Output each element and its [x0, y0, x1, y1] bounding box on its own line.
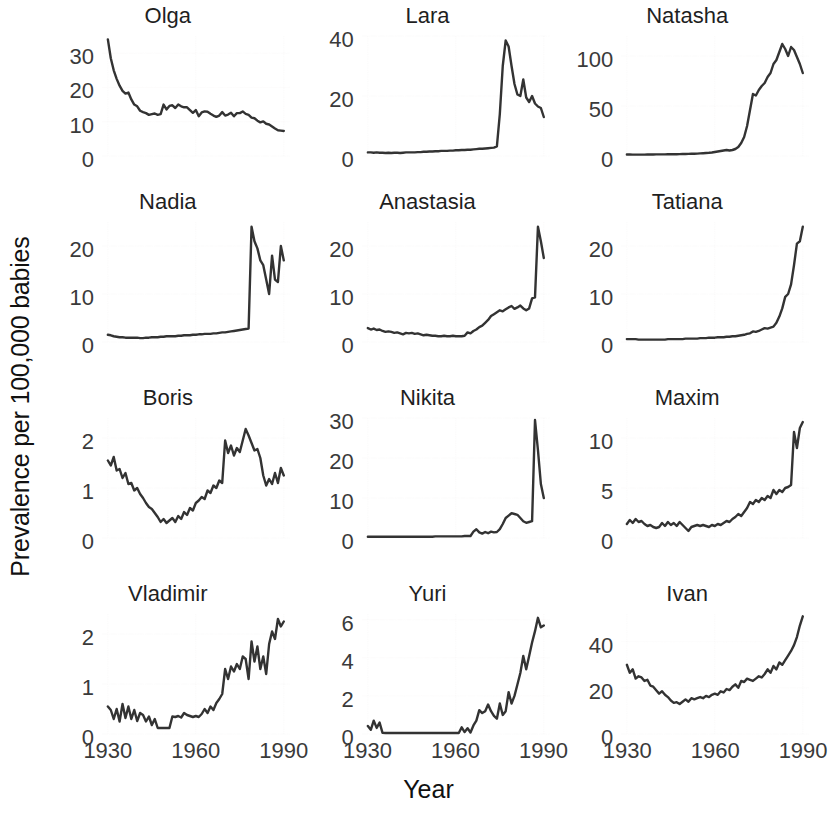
panel-nikita: Nikita0102030 [298, 382, 558, 578]
y-tick-label: 1 [82, 677, 94, 699]
y-axis-ticks-maxim: 0510 [557, 418, 617, 538]
gridlines-nadia [102, 222, 290, 342]
plot-area-nikita: 0102030 [298, 414, 558, 578]
y-tick-label: 10 [329, 491, 353, 513]
x-axis-ticks-ivan: 193019601990 [621, 738, 809, 768]
x-tick-label: 1930 [343, 740, 392, 762]
series-line-lara [368, 41, 544, 154]
panel-grid: Olga0102030Lara02040Natasha050100Nadia01… [38, 0, 817, 772]
plot-area-tatiana: 01020 [557, 218, 817, 382]
y-tick-label: 10 [70, 115, 94, 137]
gridlines-anastasia [362, 222, 550, 342]
panel-title-anastasia: Anastasia [298, 188, 558, 218]
panel-anastasia: Anastasia01020 [298, 186, 558, 382]
plot-area-ivan: 02040193019601990 [557, 610, 817, 772]
series-canvas-natasha [621, 36, 809, 156]
y-tick-label: 30 [70, 46, 94, 68]
panel-maxim: Maxim0510 [557, 382, 817, 578]
panel-title-yuri: Yuri [298, 580, 558, 610]
panel-title-olga: Olga [38, 2, 298, 32]
y-tick-label: 20 [70, 80, 94, 102]
y-axis-ticks-yuri: 0246 [298, 614, 358, 734]
y-tick-label: 10 [589, 431, 613, 453]
series-canvas-nadia [102, 222, 290, 342]
y-axis-ticks-nadia: 01020 [38, 222, 98, 342]
x-tick-label: 1930 [603, 740, 652, 762]
y-tick-label: 2 [82, 627, 94, 649]
y-axis-ticks-natasha: 050100 [557, 36, 617, 156]
y-tick-label: 4 [341, 651, 353, 673]
panel-title-maxim: Maxim [557, 384, 817, 414]
panel-vladimir: Vladimir012193019601990 [38, 578, 298, 772]
x-axis-ticks-vladimir: 193019601990 [102, 738, 290, 768]
y-tick-label: 20 [70, 239, 94, 261]
gridlines-ivan [621, 614, 809, 734]
panel-title-boris: Boris [38, 384, 298, 414]
y-axis-ticks-boris: 012 [38, 418, 98, 538]
plot-area-vladimir: 012193019601990 [38, 610, 298, 772]
y-axis-ticks-ivan: 02040 [557, 614, 617, 734]
y-axis-ticks-nikita: 0102030 [298, 418, 358, 538]
plot-area-lara: 02040 [298, 32, 558, 186]
y-tick-label: 0 [341, 335, 353, 357]
gridlines-tatiana [621, 222, 809, 342]
x-tick-label: 1960 [691, 740, 740, 762]
series-canvas-vladimir [102, 614, 290, 734]
panel-ivan: Ivan02040193019601990 [557, 578, 817, 772]
series-canvas-lara [362, 36, 550, 156]
y-tick-label: 0 [82, 531, 94, 553]
series-canvas-nikita [362, 418, 550, 538]
x-tick-label: 1960 [431, 740, 480, 762]
plot-area-maxim: 0510 [557, 414, 817, 578]
y-tick-label: 30 [329, 411, 353, 433]
y-axis-ticks-tatiana: 01020 [557, 222, 617, 342]
panel-yuri: Yuri0246193019601990 [298, 578, 558, 772]
x-axis-title: Year [40, 775, 817, 813]
panel-lara: Lara02040 [298, 0, 558, 186]
y-axis-ticks-anastasia: 01020 [298, 222, 358, 342]
plot-area-anastasia: 01020 [298, 218, 558, 382]
plot-area-boris: 012 [38, 414, 298, 578]
y-tick-label: 2 [341, 689, 353, 711]
series-canvas-boris [102, 418, 290, 538]
plot-area-olga: 0102030 [38, 32, 298, 186]
series-canvas-anastasia [362, 222, 550, 342]
panel-tatiana: Tatiana01020 [557, 186, 817, 382]
x-tick-label: 1960 [171, 740, 220, 762]
y-tick-label: 0 [341, 531, 353, 553]
y-tick-label: 40 [589, 635, 613, 657]
panel-title-natasha: Natasha [557, 2, 817, 32]
panel-title-vladimir: Vladimir [38, 580, 298, 610]
y-tick-label: 20 [589, 681, 613, 703]
gridlines-boris [102, 418, 290, 538]
y-axis-ticks-olga: 0102030 [38, 36, 98, 156]
y-tick-label: 50 [589, 99, 613, 121]
y-tick-label: 5 [601, 481, 613, 503]
y-tick-label: 40 [329, 29, 353, 51]
y-tick-label: 20 [329, 451, 353, 473]
y-tick-label: 0 [601, 531, 613, 553]
plot-area-natasha: 050100 [557, 32, 817, 186]
y-tick-label: 10 [70, 287, 94, 309]
gridlines-natasha [621, 36, 809, 156]
y-tick-label: 100 [577, 49, 614, 71]
gridlines-yuri [362, 614, 550, 734]
y-tick-label: 0 [82, 335, 94, 357]
y-tick-label: 20 [329, 89, 353, 111]
y-tick-label: 0 [82, 149, 94, 171]
panel-title-ivan: Ivan [557, 580, 817, 610]
y-axis-ticks-lara: 02040 [298, 36, 358, 156]
panel-nadia: Nadia01020 [38, 186, 298, 382]
y-tick-label: 0 [601, 335, 613, 357]
y-axis-title: Prevalence per 100,000 babies [0, 0, 40, 813]
x-tick-label: 1990 [779, 740, 828, 762]
series-line-ivan [627, 616, 803, 704]
series-canvas-yuri [362, 614, 550, 734]
gridlines-maxim [621, 418, 809, 538]
y-axis-ticks-vladimir: 012 [38, 614, 98, 734]
panel-olga: Olga0102030 [38, 0, 298, 186]
y-tick-label: 10 [589, 287, 613, 309]
y-tick-label: 0 [341, 149, 353, 171]
panel-title-nadia: Nadia [38, 188, 298, 218]
